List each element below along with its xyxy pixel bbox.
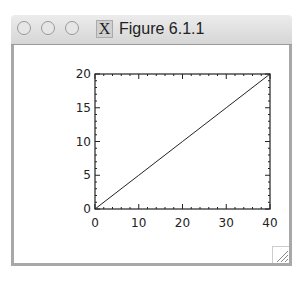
y-tick-label: 20	[76, 67, 91, 81]
data-line	[95, 74, 270, 209]
zoom-button[interactable]	[65, 21, 79, 35]
y-tick-label: 10	[76, 135, 91, 149]
figure-window: X Figure 6.1.1 01020304005101520	[11, 15, 292, 266]
y-tick-label: 5	[83, 168, 91, 182]
x-tick-label: 0	[91, 216, 99, 230]
x11-icon: X	[96, 20, 113, 38]
x-tick-label: 30	[219, 216, 234, 230]
resize-grip[interactable]	[272, 246, 289, 263]
close-button[interactable]	[17, 21, 31, 35]
figure-canvas: 01020304005101520	[11, 45, 292, 266]
line-chart: 01020304005101520	[14, 45, 289, 263]
x-tick-label: 20	[175, 216, 190, 230]
title-bar[interactable]: X Figure 6.1.1	[11, 15, 292, 45]
window-title: Figure 6.1.1	[119, 20, 204, 38]
resize-grip-icon	[273, 247, 289, 263]
x-tick-label: 40	[262, 216, 277, 230]
y-tick-label: 15	[76, 101, 91, 115]
x-tick-label: 10	[131, 216, 146, 230]
y-tick-label: 0	[83, 202, 91, 216]
minimize-button[interactable]	[41, 21, 55, 35]
